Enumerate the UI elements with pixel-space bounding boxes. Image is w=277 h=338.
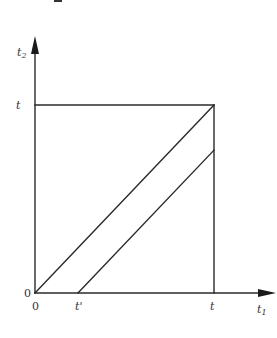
y-axis-label-subscript: 2 — [20, 51, 26, 60]
origin-label-below: 0 — [32, 300, 39, 313]
x-tick-label-t: t — [210, 300, 215, 313]
clipped-text-fragment — [54, 0, 62, 2]
x-tick-label-t-prime: t' — [75, 300, 82, 313]
y-axis-label: t2 — [17, 46, 27, 60]
y-axis-arrowhead — [31, 36, 39, 54]
diagram: t2 t 0 0 t' t t1 — [0, 0, 277, 338]
x-axis-label-subscript: 1 — [261, 308, 266, 317]
origin-label-left: 0 — [24, 287, 31, 300]
x-axis-label: t1 — [257, 303, 267, 317]
y-tick-label-t: t — [16, 99, 21, 112]
shifted-diagonal-line — [78, 150, 214, 293]
x-axis-arrowhead — [258, 289, 276, 297]
main-diagonal-line — [35, 105, 214, 293]
